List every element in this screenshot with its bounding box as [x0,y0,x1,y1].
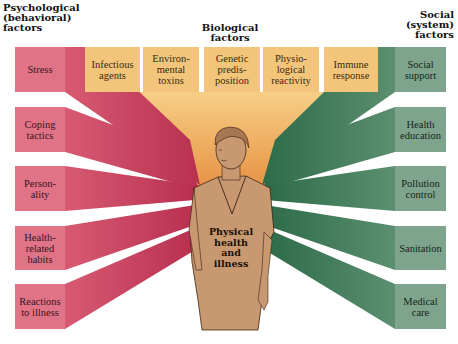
center-label-physical-health: Physical health and illness [189,227,273,269]
person-figure [0,0,458,344]
